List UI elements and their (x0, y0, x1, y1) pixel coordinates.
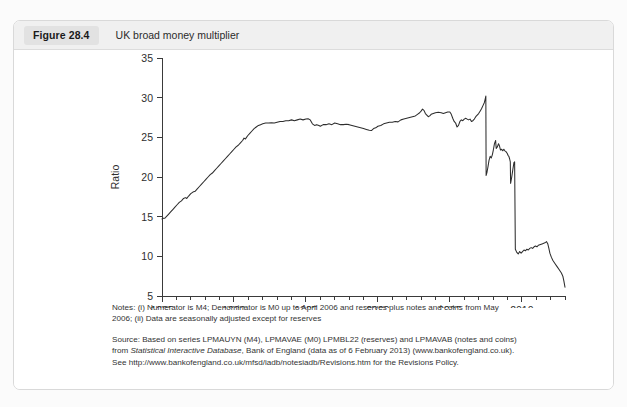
source-database-name: Statistical Interactive Database (130, 346, 241, 355)
source-line-2: from Statistical Interactive Database, B… (112, 345, 582, 356)
y-tick-label: 25 (141, 131, 153, 143)
figure-title: UK broad money multiplier (116, 29, 240, 41)
figure-body: 5101520253035198519901995200020052010Rat… (14, 50, 613, 390)
source-line-3: See http://www.bankofengland.co.uk/mfsd/… (112, 357, 582, 368)
figure-footnotes: Notes: (i) Numerator is M4; Denominator … (112, 302, 582, 368)
y-axis-title: Ratio (109, 165, 121, 190)
source-line-2-suffix: , Bank of England (data as of 6 February… (242, 346, 515, 355)
source-block: Source: Based on series LPMAUYN (M4), LP… (112, 334, 582, 368)
notes-line-2: 2006; (ii) Data are seasonally adjusted … (112, 313, 582, 324)
y-tick-label: 10 (141, 250, 153, 262)
page-background: Figure 28.4 UK broad money multiplier 51… (0, 0, 627, 407)
y-tick-label: 5 (147, 290, 153, 302)
money-multiplier-line-chart: 5101520253035198519901995200020052010Rat… (14, 50, 613, 308)
y-tick-label: 15 (141, 211, 153, 223)
figure-header: Figure 28.4 UK broad money multiplier (14, 21, 613, 50)
data-series-line-0 (162, 96, 565, 287)
source-line-1: Source: Based on series LPMAUYN (M4), LP… (112, 334, 582, 345)
figure-number-badge: Figure 28.4 (24, 26, 99, 45)
y-tick-label: 20 (141, 171, 153, 183)
figure-panel: Figure 28.4 UK broad money multiplier 51… (13, 20, 614, 390)
chart-area: 5101520253035198519901995200020052010Rat… (14, 50, 613, 308)
y-tick-label: 35 (141, 52, 153, 64)
source-line-2-prefix: from (112, 346, 130, 355)
y-tick-label: 30 (141, 92, 153, 104)
notes-line-1: Notes: (i) Numerator is M4; Denominator … (112, 302, 582, 313)
